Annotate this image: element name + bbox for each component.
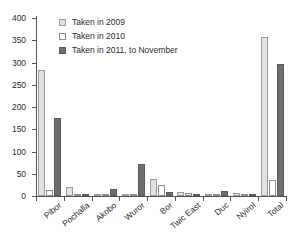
x-axis-tick-label: Nyirol [235, 200, 258, 222]
x-axis-tick-label: Twic East [168, 200, 202, 231]
bar-group [233, 18, 256, 196]
bar-group [94, 18, 117, 196]
x-axis-tick-label: Total [265, 200, 285, 219]
bar [233, 193, 240, 196]
bar-group [150, 18, 173, 196]
plot-area [36, 18, 286, 196]
bar [185, 193, 192, 196]
bar [66, 187, 73, 196]
y-axis-tick-label: 50 [0, 170, 26, 179]
y-axis-labels: 050100150200250300350400 [0, 18, 30, 196]
bar [110, 189, 117, 196]
x-axis-tick-label: Duc [212, 200, 230, 217]
bar [269, 180, 276, 196]
bar [150, 179, 157, 196]
bar [130, 194, 137, 196]
bar [54, 118, 61, 196]
x-axis-tick-label: Akobo [94, 200, 119, 223]
bar-group [38, 18, 61, 196]
y-axis-tick-label: 350 [0, 36, 26, 45]
x-axis-labels: PiborPochallaAkoboWurorBorTwic EastDucNy… [36, 200, 291, 241]
bar [38, 70, 45, 196]
bar [177, 192, 184, 196]
bar-chart: Taken in 2009 Taken in 2010 Taken in 201… [0, 0, 300, 241]
y-axis-tick-label: 250 [0, 81, 26, 90]
bar [221, 191, 228, 196]
bar [94, 194, 101, 196]
bar [138, 164, 145, 196]
y-axis-tick-label: 0 [0, 192, 26, 201]
y-axis-tick-label: 300 [0, 59, 26, 68]
y-axis-tick-label: 200 [0, 103, 26, 112]
bar-group [177, 18, 200, 196]
x-axis-tick-label: Pochalla [60, 200, 91, 229]
bar-group [122, 18, 145, 196]
bar [102, 194, 109, 196]
bar [205, 194, 212, 196]
y-axis-tick-label: 150 [0, 125, 26, 134]
bar [122, 194, 129, 196]
x-axis-tick-label: Pibor [42, 200, 64, 220]
bar-group [205, 18, 228, 196]
bar [241, 194, 248, 196]
bar-group [66, 18, 89, 196]
bar-group [261, 18, 284, 196]
bar [249, 194, 256, 196]
bar [193, 194, 200, 196]
y-axis-tick-label: 400 [0, 14, 26, 23]
bar [166, 192, 173, 196]
x-axis-tick-label: Wuror [123, 200, 147, 222]
bar [277, 64, 284, 196]
bar [74, 194, 81, 196]
y-axis-tick-label: 100 [0, 148, 26, 157]
x-axis-tick-label: Bor [158, 200, 175, 216]
bar [46, 190, 53, 196]
bar [82, 194, 89, 196]
bar [158, 185, 165, 196]
bar [261, 37, 268, 196]
bar [213, 194, 220, 196]
